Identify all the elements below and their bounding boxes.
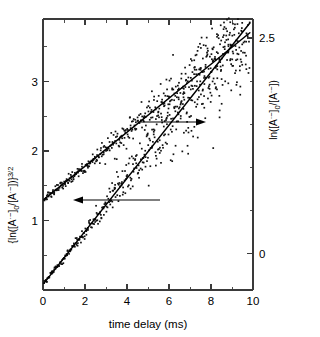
data-point: [132, 186, 134, 188]
data-point: [226, 30, 228, 32]
data-point: [62, 262, 64, 264]
data-point: [98, 156, 100, 158]
data-point: [118, 146, 120, 148]
data-point: [166, 123, 168, 125]
data-point: [219, 117, 221, 119]
data-point: [184, 67, 186, 69]
data-point: [211, 28, 213, 30]
data-point: [146, 107, 148, 109]
data-point: [122, 187, 124, 189]
x-tick-labels: 0246810: [40, 295, 260, 307]
data-point: [115, 196, 117, 198]
data-point: [193, 59, 195, 61]
data-point: [232, 51, 234, 53]
data-point: [244, 52, 246, 54]
data-point: [201, 37, 203, 39]
data-point: [146, 134, 148, 136]
data-point: [198, 90, 200, 92]
data-point: [122, 170, 124, 172]
data-point: [149, 107, 151, 109]
data-point: [152, 141, 154, 143]
data-point: [218, 95, 220, 97]
data-point: [88, 165, 90, 167]
data-point: [131, 178, 133, 180]
data-point: [222, 84, 224, 86]
data-point: [222, 65, 224, 67]
data-point: [123, 144, 125, 146]
data-point: [223, 34, 225, 36]
data-point: [169, 101, 171, 103]
data-point: [197, 137, 199, 139]
data-point: [141, 101, 143, 103]
data-point: [228, 17, 230, 19]
data-point: [57, 184, 59, 186]
data-point: [241, 27, 243, 29]
data-point: [208, 68, 210, 70]
data-point: [173, 153, 175, 155]
data-point: [52, 189, 54, 191]
data-point: [185, 79, 187, 81]
data-point: [212, 81, 214, 83]
data-point: [224, 48, 226, 50]
data-point: [135, 128, 137, 130]
data-point: [248, 72, 250, 74]
data-point: [192, 136, 194, 138]
data-point: [70, 174, 72, 176]
data-point: [117, 176, 119, 178]
data-point: [193, 73, 195, 75]
data-point: [188, 86, 190, 88]
data-point: [158, 95, 160, 97]
data-point: [100, 147, 102, 149]
data-point: [236, 81, 238, 83]
data-point: [217, 52, 219, 54]
data-point: [241, 44, 243, 46]
data-point: [130, 180, 132, 182]
data-point: [188, 132, 190, 134]
data-point: [190, 77, 192, 79]
data-point: [130, 125, 132, 127]
data-point: [240, 59, 242, 61]
data-point: [245, 41, 247, 43]
data-point: [141, 169, 143, 171]
data-point: [175, 106, 177, 108]
data-point: [174, 95, 176, 97]
data-point: [161, 119, 163, 121]
data-point: [159, 152, 161, 154]
data-point: [181, 151, 183, 153]
data-point: [225, 35, 227, 37]
data-point: [176, 96, 178, 98]
data-point: [158, 108, 160, 110]
data-point: [202, 89, 204, 91]
data-point: [156, 115, 158, 117]
data-point: [166, 89, 168, 91]
data-point: [219, 43, 221, 45]
data-point: [231, 59, 233, 61]
data-point: [216, 69, 218, 71]
data-point: [230, 58, 232, 60]
data-point: [159, 147, 161, 149]
data-point: [164, 133, 166, 135]
y-right-tick-label: 0: [259, 248, 265, 260]
data-point: [206, 37, 208, 39]
data-point: [95, 205, 97, 207]
y-left-tick-label: 3: [32, 76, 38, 88]
data-point: [69, 180, 71, 182]
data-point: [212, 48, 214, 50]
data-point: [202, 58, 204, 60]
data-point: [171, 131, 173, 133]
data-point: [153, 134, 155, 136]
data-point: [84, 238, 86, 240]
data-point: [207, 54, 209, 56]
data-point: [196, 54, 198, 56]
data-point: [213, 78, 215, 80]
data-point: [168, 108, 170, 110]
data-point: [160, 162, 162, 164]
data-point: [193, 67, 195, 69]
data-point: [242, 52, 244, 54]
data-point: [153, 131, 155, 133]
data-point: [223, 28, 225, 30]
data-point: [231, 35, 233, 37]
data-point: [216, 77, 218, 79]
y-right-tick-label: 2.5: [259, 32, 275, 44]
data-point: [155, 118, 157, 120]
